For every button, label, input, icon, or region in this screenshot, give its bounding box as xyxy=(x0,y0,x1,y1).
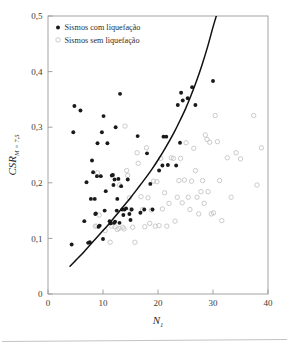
data-point-open xyxy=(255,183,259,187)
data-point-filled xyxy=(114,125,118,129)
data-point-filled xyxy=(82,219,86,223)
data-point-open xyxy=(197,212,201,216)
data-point-open xyxy=(182,178,186,182)
data-point-filled xyxy=(71,130,75,134)
data-point-filled xyxy=(119,184,123,188)
data-point-filled xyxy=(166,163,170,167)
data-point-open xyxy=(259,146,263,150)
data-point-filled xyxy=(102,114,106,118)
x-tick-label: 0 xyxy=(46,298,51,308)
data-point-filled xyxy=(211,79,215,83)
data-point-filled xyxy=(142,208,146,212)
data-point-filled xyxy=(94,211,98,215)
data-point-open xyxy=(133,240,137,244)
data-point-open xyxy=(202,201,206,205)
data-point-open xyxy=(186,195,190,199)
data-point-open xyxy=(178,156,182,160)
data-point-filled xyxy=(145,151,149,155)
data-point-filled xyxy=(126,178,130,182)
data-point-filled xyxy=(101,237,105,241)
svg-text:CSRM = 7,5: CSRM = 7,5 xyxy=(6,134,20,176)
data-point-filled xyxy=(113,178,117,182)
data-point-open xyxy=(220,218,224,222)
data-point-filled xyxy=(136,134,140,138)
data-point-open xyxy=(195,195,199,199)
data-point-filled xyxy=(118,92,122,96)
data-point-filled xyxy=(121,213,125,217)
data-point-filled xyxy=(89,197,93,201)
data-point-filled xyxy=(138,211,142,215)
data-point-open xyxy=(217,178,221,182)
data-point-open xyxy=(184,141,188,145)
data-point-open xyxy=(193,168,197,172)
data-point-filled xyxy=(112,183,116,187)
data-point-open xyxy=(136,161,140,165)
data-point-filled xyxy=(100,130,104,134)
data-point-filled xyxy=(70,243,74,247)
bottom-rule xyxy=(2,340,287,342)
x-tick-labels: 010203040 xyxy=(46,298,273,308)
data-point-filled xyxy=(129,218,133,222)
y-tick-label: 0,2 xyxy=(31,178,42,188)
data-point-open xyxy=(167,201,171,205)
x-tick-label: 20 xyxy=(154,298,164,308)
data-point-filled xyxy=(98,224,102,228)
y-tick-label: 0,1 xyxy=(31,234,42,244)
data-point-filled xyxy=(127,212,131,216)
data-point-filled xyxy=(99,174,103,178)
data-point-filled xyxy=(174,164,178,168)
data-point-open xyxy=(175,195,179,199)
data-point-filled xyxy=(130,208,134,212)
data-point-filled xyxy=(151,208,155,212)
data-point-open xyxy=(177,178,181,182)
data-point-open xyxy=(139,195,143,199)
data-point-filled xyxy=(95,174,99,178)
data-point-filled xyxy=(160,164,164,168)
data-point-open xyxy=(180,201,184,205)
data-point-filled xyxy=(90,159,94,163)
data-point-filled xyxy=(72,104,76,108)
data-point-filled xyxy=(179,91,183,95)
data-point-open xyxy=(203,133,207,137)
data-point-filled xyxy=(178,141,182,145)
data-point-filled xyxy=(104,189,108,193)
data-point-filled xyxy=(93,197,97,201)
data-point-filled xyxy=(181,99,185,103)
data-point-open xyxy=(123,124,127,128)
data-point-open xyxy=(135,151,139,155)
data-point-filled xyxy=(157,169,161,173)
data-point-open xyxy=(229,195,233,199)
data-point-filled xyxy=(103,209,107,213)
data-point-open xyxy=(143,225,147,229)
data-point-filled xyxy=(193,103,197,107)
data-point-filled xyxy=(118,221,122,225)
data-point-filled xyxy=(113,220,117,224)
x-tick-label: 40 xyxy=(264,298,274,308)
chart-legend: Sismos com liquefaçãoSismos sem liquefaç… xyxy=(56,23,141,45)
y-axis-title: CSRM = 7,5 xyxy=(6,134,20,176)
y-tick-label: 0,3 xyxy=(31,122,43,132)
legend-marker-filled xyxy=(56,25,60,29)
x-tick-label: 10 xyxy=(99,298,109,308)
data-point-open xyxy=(206,189,210,193)
data-point-open xyxy=(199,189,203,193)
data-point-open xyxy=(252,113,256,117)
data-point-open xyxy=(160,207,164,211)
y-tick-label: 0,4 xyxy=(31,67,43,77)
figure-container: 010203040 00,10,20,30,40,5 Sismos com li… xyxy=(0,0,289,347)
data-point-open xyxy=(205,137,209,141)
data-point-open xyxy=(225,156,229,160)
data-point-filled xyxy=(176,103,180,107)
data-point-open xyxy=(108,240,112,244)
data-point-filled xyxy=(91,170,95,174)
data-point-open xyxy=(173,219,177,223)
data-point-open xyxy=(146,196,150,200)
data-point-filled xyxy=(116,177,120,181)
y-tick-label: 0 xyxy=(38,289,43,299)
data-point-open xyxy=(148,221,152,225)
data-point-filled xyxy=(85,180,89,184)
axis-titles: N1CSRM = 7,5 xyxy=(6,134,163,328)
data-point-open xyxy=(131,225,135,229)
series-com-liquefacao-points xyxy=(70,79,215,246)
data-point-open xyxy=(208,140,212,144)
